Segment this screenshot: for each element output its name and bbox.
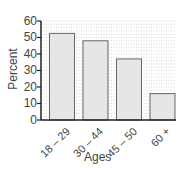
bar-1 xyxy=(83,41,108,120)
bar-2 xyxy=(117,59,142,120)
bar-3 xyxy=(150,94,175,120)
y-tick-10: 10 xyxy=(17,97,37,109)
y-axis-title: Percent xyxy=(6,48,20,89)
y-tick-60: 60 xyxy=(17,15,37,27)
x-axis-title: Ages xyxy=(84,150,111,164)
y-tick-0: 0 xyxy=(17,114,37,126)
y-tick-40: 40 xyxy=(17,48,37,60)
y-tick-50: 50 xyxy=(17,31,37,43)
y-tick-20: 20 xyxy=(17,81,37,93)
bar-0 xyxy=(50,33,75,120)
y-tick-30: 30 xyxy=(17,64,37,76)
bar-chart: 60 50 40 30 20 10 0 18 – 29 30 – 44 45 –… xyxy=(0,0,185,171)
